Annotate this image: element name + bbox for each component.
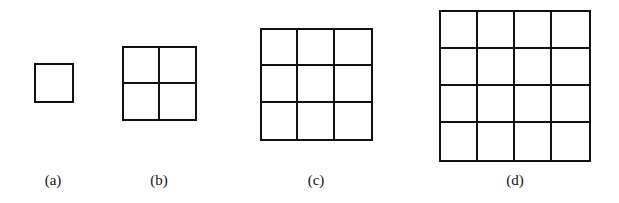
grid-cell bbox=[515, 49, 552, 86]
grid-cell bbox=[262, 103, 298, 139]
panel-label-b: (b) bbox=[150, 172, 168, 189]
grid-b bbox=[122, 46, 197, 121]
grid-cell bbox=[441, 123, 478, 160]
grid-cell bbox=[552, 86, 589, 123]
grid-cell bbox=[298, 103, 334, 139]
grid-d bbox=[439, 10, 591, 162]
grid-cell bbox=[36, 65, 72, 101]
grid-cell bbox=[515, 123, 552, 160]
grid-cell bbox=[335, 66, 371, 102]
panel-label-a: (a) bbox=[45, 172, 62, 189]
grid-cell bbox=[478, 123, 515, 160]
grid-cell bbox=[298, 30, 334, 66]
grid-cell bbox=[552, 12, 589, 49]
grid-a bbox=[34, 63, 74, 103]
grid-cell bbox=[160, 84, 196, 120]
grid-cell bbox=[515, 12, 552, 49]
grid-cell bbox=[515, 86, 552, 123]
grid-cell bbox=[478, 86, 515, 123]
grid-cell bbox=[441, 12, 478, 49]
grid-cell bbox=[124, 84, 160, 120]
grid-cell bbox=[478, 49, 515, 86]
panel-label-d: (d) bbox=[506, 172, 524, 189]
grid-cell bbox=[262, 66, 298, 102]
grid-cell bbox=[552, 49, 589, 86]
grid-cell bbox=[160, 48, 196, 84]
grid-cell bbox=[124, 48, 160, 84]
grid-cell bbox=[298, 66, 334, 102]
grid-cell bbox=[552, 123, 589, 160]
grid-cell bbox=[335, 30, 371, 66]
grid-cell bbox=[441, 49, 478, 86]
grid-cell bbox=[335, 103, 371, 139]
grid-cell bbox=[262, 30, 298, 66]
grid-cell bbox=[441, 86, 478, 123]
panel-label-c: (c) bbox=[308, 172, 325, 189]
grid-cell bbox=[478, 12, 515, 49]
grid-c bbox=[260, 28, 373, 141]
